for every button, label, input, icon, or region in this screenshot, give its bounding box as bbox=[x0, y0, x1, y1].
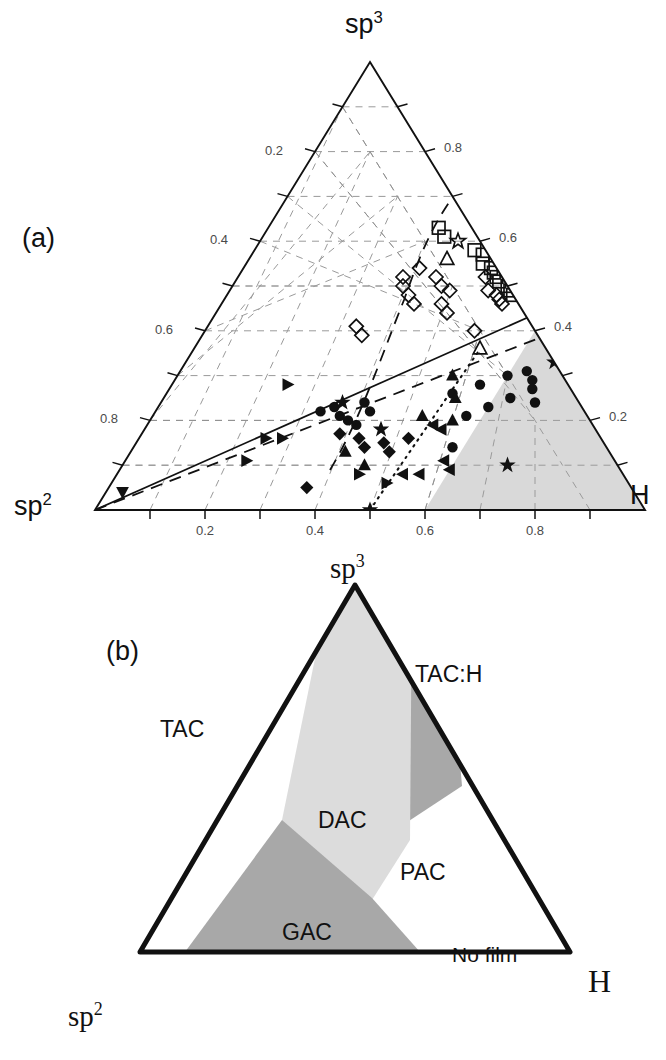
data-point-filled-triangle-down bbox=[116, 487, 129, 499]
panel-b-plot-area bbox=[140, 585, 570, 952]
apex-left-text-a: sp bbox=[14, 491, 43, 521]
data-point-open-square bbox=[476, 248, 489, 261]
data-point-open-diamond bbox=[396, 270, 410, 284]
tick-right-0.4: 0.4 bbox=[554, 319, 572, 334]
tick-bottom-0.6: 0.6 bbox=[416, 523, 434, 538]
apex-top-sup-b: 3 bbox=[356, 551, 365, 571]
data-point-filled-triangle-right bbox=[382, 477, 394, 490]
region-label-tac: TAC bbox=[160, 718, 204, 741]
tick-left-0.2: 0.2 bbox=[265, 143, 283, 158]
data-point-filled-diamond bbox=[333, 427, 346, 440]
panel-a-plot-area: 0.2 0.4 0.6 0.8 0.8 0.6 0.4 0.2 0.2 0.4 … bbox=[95, 62, 645, 538]
region-label-tac-h: TAC:H bbox=[415, 663, 482, 686]
data-point-filled-triangle-right bbox=[277, 432, 289, 445]
panel-a-apex-right-label: H bbox=[630, 482, 650, 509]
data-point-filled-circle bbox=[461, 411, 471, 421]
data-point-open-diamond bbox=[435, 297, 449, 311]
tick-left-0.4: 0.4 bbox=[210, 232, 228, 247]
data-point-open-square bbox=[548, 266, 561, 279]
data-point-filled-circle bbox=[527, 384, 537, 394]
figure-ternary-phase-diagrams: 0.2 0.4 0.6 0.8 0.8 0.6 0.4 0.2 0.2 0.4 … bbox=[0, 0, 666, 1060]
data-point-filled-triangle-right bbox=[283, 378, 295, 391]
tick-left-0.6: 0.6 bbox=[155, 322, 173, 337]
data-point-filled-diamond bbox=[300, 481, 313, 494]
panel-a-apex-left-label: sp2 bbox=[14, 492, 52, 520]
apex-left-sup-b: 2 bbox=[94, 999, 103, 1019]
data-point-open-square bbox=[468, 244, 481, 257]
data-point-filled-circle bbox=[505, 393, 515, 403]
data-point-filled-circle bbox=[483, 402, 493, 412]
apex-left-sup-a: 2 bbox=[43, 490, 52, 509]
tick-bottom-0.2: 0.2 bbox=[196, 523, 214, 538]
data-point-filled-circle bbox=[329, 402, 339, 412]
apex-top-sup-a: 3 bbox=[374, 8, 383, 27]
data-point-filled-circle bbox=[527, 375, 537, 385]
boundary-dashed-upper-a bbox=[330, 198, 452, 470]
data-point-filled-circle bbox=[359, 397, 369, 407]
data-point-filled-circle bbox=[530, 397, 540, 407]
data-point-filled-triangle-right bbox=[241, 454, 253, 467]
data-point-filled-triangle-up bbox=[446, 413, 459, 425]
tick-left-0.8: 0.8 bbox=[100, 411, 118, 426]
panel-a-apex-top-label: sp3 bbox=[345, 10, 383, 38]
data-point-filled-circle bbox=[365, 406, 375, 416]
panel-b-apex-left-label: sp2 bbox=[68, 1000, 103, 1031]
apex-top-text-a: sp bbox=[345, 9, 374, 39]
panel-b-ternary-regions bbox=[0, 540, 666, 1060]
tick-right-0.2: 0.2 bbox=[609, 409, 627, 424]
data-point-filled-circle bbox=[315, 406, 325, 416]
tick-bottom-0.8: 0.8 bbox=[526, 523, 544, 538]
tick-bottom-0.4: 0.4 bbox=[306, 523, 324, 538]
tick-right-0.6: 0.6 bbox=[499, 230, 517, 245]
tick-right-0.8: 0.8 bbox=[444, 140, 462, 155]
panel-b-apex-top-label: sp3 bbox=[330, 552, 365, 583]
panel-a-ternary-scatter: 0.2 0.4 0.6 0.8 0.8 0.6 0.4 0.2 0.2 0.4 … bbox=[0, 0, 666, 540]
data-point-filled-diamond bbox=[402, 432, 415, 445]
data-point-filled-circle bbox=[522, 366, 532, 376]
data-point-filled-star bbox=[373, 421, 389, 437]
data-point-filled-triangle-left bbox=[413, 468, 425, 481]
data-point-open-diamond bbox=[429, 270, 443, 284]
region-label-gac: GAC bbox=[282, 921, 332, 944]
region-label-pac: PAC bbox=[400, 861, 446, 884]
data-point-filled-circle bbox=[502, 370, 512, 380]
data-point-filled-circle bbox=[475, 379, 485, 389]
data-point-open-star bbox=[450, 233, 465, 248]
apex-left-text-b: sp bbox=[68, 1000, 94, 1032]
data-point-filled-triangle-up bbox=[358, 458, 371, 470]
panel-a-tag: (a) bbox=[22, 225, 55, 252]
region-label-no-film: No film bbox=[452, 944, 517, 965]
apex-top-text-b: sp bbox=[330, 552, 356, 584]
panel-b-apex-right-label: H bbox=[588, 965, 611, 997]
data-point-filled-triangle-up bbox=[416, 409, 429, 421]
data-point-open-triangle-up bbox=[440, 252, 454, 265]
data-point-filled-circle bbox=[351, 420, 361, 430]
data-point-filled-circle bbox=[447, 442, 457, 452]
data-point-open-square bbox=[543, 257, 556, 270]
panel-b-tag: (b) bbox=[106, 638, 139, 665]
region-label-dac: DAC bbox=[318, 809, 367, 832]
